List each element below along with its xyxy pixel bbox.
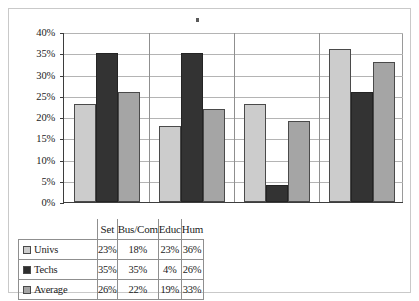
bar-univs-set bbox=[74, 104, 96, 202]
bar-techs-set bbox=[96, 53, 118, 202]
legend-label: Univs bbox=[34, 244, 58, 255]
legend-swatch-icon bbox=[23, 286, 31, 294]
table-corner-cell bbox=[19, 219, 98, 240]
bar-group-bars bbox=[234, 33, 319, 202]
table-cell: 4% bbox=[158, 260, 181, 280]
bar-techs-hum bbox=[351, 92, 373, 203]
bar-univs-hum bbox=[329, 49, 351, 202]
y-axis-tick-label: 30% bbox=[17, 70, 55, 81]
table-header-row: SetBus/ComEducHum bbox=[19, 219, 204, 240]
table-cell: 36% bbox=[181, 240, 203, 260]
bar-univs-buscom bbox=[159, 126, 181, 203]
legend-entry-average: Average bbox=[19, 280, 98, 300]
bar-group bbox=[64, 33, 149, 202]
bar-group-bars bbox=[64, 33, 149, 202]
data-table-body: SetBus/ComEducHumUnivs23%18%23%36%Techs3… bbox=[19, 219, 204, 300]
bar-univs-educ bbox=[244, 104, 266, 202]
table-column-header: Hum bbox=[181, 219, 203, 240]
legend-label: Average bbox=[34, 284, 67, 295]
bar-average-hum bbox=[373, 62, 395, 202]
bar-average-buscom bbox=[203, 109, 225, 203]
scan-artifact-dot bbox=[196, 18, 199, 22]
bar-average-educ bbox=[288, 121, 310, 202]
table-column-header: Set bbox=[98, 219, 118, 240]
table-cell: 22% bbox=[117, 280, 158, 300]
bar-group bbox=[234, 33, 319, 202]
table-cell: 35% bbox=[98, 260, 118, 280]
legend-swatch-icon bbox=[23, 266, 31, 274]
table-row: Techs35%35%4%26% bbox=[19, 260, 204, 280]
category-separator bbox=[234, 33, 235, 202]
y-axis-labels: 40%35%30%25%20%15%10%5%0% bbox=[17, 23, 55, 219]
legend-label: Techs bbox=[34, 264, 57, 275]
bar-techs-educ bbox=[266, 185, 288, 202]
table-cell: 23% bbox=[158, 240, 181, 260]
y-axis-tick-label: 20% bbox=[17, 113, 55, 124]
table-cell: 33% bbox=[181, 280, 203, 300]
bar-chart: 40%35%30%25%20%15%10%5%0% bbox=[9, 23, 412, 219]
table-cell: 26% bbox=[98, 280, 118, 300]
y-axis-tick-label: 35% bbox=[17, 49, 55, 60]
bar-group bbox=[319, 33, 404, 202]
table-cell: 35% bbox=[117, 260, 158, 280]
table-row: Univs23%18%23%36% bbox=[19, 240, 204, 260]
y-axis-tick-label: 5% bbox=[17, 177, 55, 188]
y-axis-tick-label: 10% bbox=[17, 155, 55, 166]
table-cell: 19% bbox=[158, 280, 181, 300]
data-table: SetBus/ComEducHumUnivs23%18%23%36%Techs3… bbox=[18, 219, 204, 300]
table-column-header: Bus/Com bbox=[117, 219, 158, 240]
legend-swatch-icon bbox=[23, 246, 31, 254]
y-axis-tick-label: 40% bbox=[17, 28, 55, 39]
y-axis-tick bbox=[60, 203, 64, 204]
table-cell: 26% bbox=[181, 260, 203, 280]
y-axis-tick-label: 15% bbox=[17, 134, 55, 145]
bar-group-bars bbox=[149, 33, 234, 202]
chart-figure: 40%35%30%25%20%15%10%5%0% SetBus/ComEduc… bbox=[8, 8, 411, 293]
legend-entry-techs: Techs bbox=[19, 260, 98, 280]
table-column-header: Educ bbox=[158, 219, 181, 240]
table-cell: 23% bbox=[98, 240, 118, 260]
table-cell: 18% bbox=[117, 240, 158, 260]
bar-group bbox=[149, 33, 234, 202]
y-axis-tick-label: 25% bbox=[17, 92, 55, 103]
bar-techs-buscom bbox=[181, 53, 203, 202]
bar-average-set bbox=[118, 92, 140, 203]
y-axis-tick-label: 0% bbox=[17, 198, 55, 209]
table-row: Average26%22%19%33% bbox=[19, 280, 204, 300]
legend-entry-univs: Univs bbox=[19, 240, 98, 260]
category-separator bbox=[319, 33, 320, 202]
bar-group-bars bbox=[319, 33, 404, 202]
category-separator bbox=[149, 33, 150, 202]
plot-area bbox=[63, 33, 403, 203]
